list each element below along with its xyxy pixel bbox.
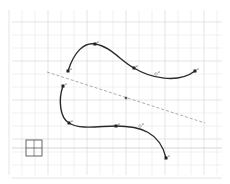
point-label: ø [197,67,199,71]
point-label: ø [168,154,170,158]
point-label: ø [118,122,120,126]
point-label: ø [136,64,138,68]
point-label: ø [70,67,72,71]
control-handle[interactable] [155,73,158,76]
origin-widget[interactable] [26,140,42,156]
mirror-midpoint-handle[interactable] [125,97,127,99]
point-label: ø [65,82,67,86]
point-label: ø [71,119,73,123]
control-handle[interactable] [139,125,142,128]
point-label: ø [97,40,99,44]
diagram-canvas: øøøøøøøøøø [0,0,230,184]
point-label: ø [158,70,160,74]
point-label: ø [142,122,144,126]
